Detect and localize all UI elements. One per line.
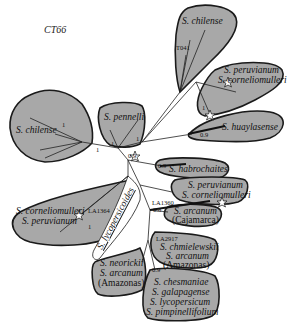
tree-title: CT66 (44, 24, 66, 35)
support-esculentum: 0.9 (152, 266, 160, 273)
support-peruvianum-top: 1 (202, 104, 205, 111)
node-t041: T041 (176, 44, 190, 51)
label-peruvianum-right: S. peruvianum (188, 180, 243, 190)
label-pimpinellifolium: S. pimpinellifolium (146, 307, 218, 317)
node-la1360: LA1360 (152, 199, 174, 206)
label-amazonas-right: (Amazonas) (163, 260, 209, 271)
label-peruvianum-left: S. peruvianum (22, 216, 77, 226)
support-arcanum-cajamarca: 0.8 (153, 206, 161, 213)
phylogenetic-tree: CT66 (0, 0, 300, 328)
label-amazonas-left: (Amazonas) (98, 278, 144, 289)
label-pennellii: S. pennelli (104, 112, 144, 122)
label-galapagense: S. galapagense (152, 287, 210, 297)
label-cajamarca: (Cajamarca) (172, 215, 219, 226)
label-corneliomulleri-top: S. corneliomulleri (218, 75, 287, 85)
label-chilense-top: S. chilense (182, 16, 223, 26)
label-corneliomulleri-right: S. corneliomulleri (182, 190, 251, 200)
label-chilense-left: S. chilense (16, 125, 57, 135)
support-chilense-left-b: 1 (96, 146, 99, 153)
support-huaylasense: 0.9 (200, 131, 208, 138)
label-neorickii: S. neorickii (100, 258, 144, 268)
label-arcanum-amazonas-left: S. arcanum (100, 268, 143, 278)
support-pennellii-a: 1 (111, 140, 114, 147)
node-la2917: LA2917 (156, 235, 178, 242)
label-peruvianum-top: S. peruvianum (224, 65, 279, 75)
support-habrochaites: 0.9 (158, 162, 166, 169)
label-habrochaites: S. habrochaites (169, 164, 228, 174)
label-chesmaniae: S. chesmaniae (154, 277, 208, 287)
support-center: 0.9 (128, 152, 136, 159)
node-la1364: LA1364 (88, 207, 110, 214)
support-chilense-left-a: 1 (62, 121, 65, 128)
label-corneliomulleri-left: S. corneliomulleri (16, 206, 85, 216)
support-pennellii-b: 1 (136, 135, 139, 142)
label-huaylasense: S. huaylasense (222, 122, 278, 132)
label-lycopersicum: S. lycopersicum (150, 297, 210, 307)
support-corneliomulleri-left: 1 (88, 223, 91, 230)
